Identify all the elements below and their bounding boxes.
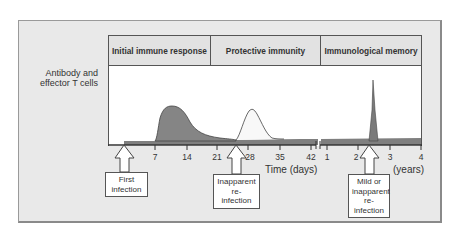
tick-label-day: 14 — [182, 152, 191, 162]
first-infection-arrow-icon — [115, 145, 134, 172]
tick-label-year: 4 — [419, 152, 424, 162]
callout-text: infection — [109, 185, 144, 195]
callout-text: re-infection — [352, 196, 386, 215]
callout-text: Mild or — [352, 177, 386, 187]
tick-label-day: 35 — [275, 152, 284, 162]
callout-text: re-infection — [217, 187, 256, 206]
callout-inapparent-reinfection: Inapparent re-infection — [213, 174, 260, 209]
callout-first-infection: First infection — [105, 172, 148, 197]
tick-label-day: 7 — [153, 152, 158, 162]
x-axis-title-years: (years) — [393, 164, 424, 175]
tick-label-day: 21 — [212, 152, 221, 162]
mild-reinfection-arrow-icon — [360, 145, 379, 174]
callout-text: Inapparent — [217, 177, 256, 187]
secondary-response-curve — [236, 109, 284, 140]
tick-label-year: 3 — [388, 152, 393, 162]
callout-text: First — [109, 175, 144, 185]
callout-text: inapparent — [352, 187, 386, 197]
callout-mild-reinfection: Mild or inapparent re-infection — [348, 174, 390, 218]
x-axis-title-days: Time (days) — [265, 164, 317, 175]
reinfection-arrow-icon — [227, 145, 246, 174]
tick-label-day: 28 — [245, 152, 254, 162]
memory-response-spike — [369, 80, 378, 141]
tick-label-year: 1 — [325, 152, 330, 162]
tick-label-day: 42 — [306, 152, 315, 162]
tick-label-year: 2 — [354, 152, 359, 162]
primary-response-curve — [155, 106, 236, 141]
